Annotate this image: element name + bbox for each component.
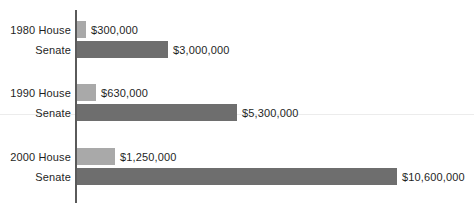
bar-1980-house	[77, 21, 86, 38]
bar-2000-house	[77, 148, 115, 165]
category-label-text: Senate	[35, 171, 71, 183]
category-label-1990-house: 1990 House	[0, 87, 71, 99]
value-label-1980-house: $300,000	[91, 24, 138, 36]
value-label-2000-house: $1,250,000	[120, 151, 177, 163]
category-label-text: 1990 House	[10, 87, 71, 99]
bar-chart: 1980 House $300,000 Senate $3,000,000 19…	[0, 0, 474, 214]
value-label-2000-senate: $10,600,000	[402, 171, 465, 183]
category-label-text: 2000 House	[10, 151, 71, 163]
category-label-2000-house: 2000 House	[0, 151, 71, 163]
value-label-1990-senate: $5,300,000	[242, 107, 299, 119]
bar-1980-senate	[77, 41, 168, 58]
category-label-1980-senate: Senate	[0, 44, 71, 56]
category-label-text: Senate	[35, 107, 71, 119]
value-label-1980-senate: $3,000,000	[173, 44, 230, 56]
bar-1990-senate	[77, 104, 237, 121]
category-label-text: Senate	[35, 44, 71, 56]
ghost-scanline	[0, 114, 474, 115]
value-label-1990-house: $630,000	[101, 87, 148, 99]
bar-1990-house	[77, 84, 96, 101]
category-label-2000-senate: Senate	[0, 171, 71, 183]
bar-2000-senate	[77, 168, 397, 185]
category-label-1990-senate: Senate	[0, 107, 71, 119]
category-label-text: 1980 House	[10, 24, 71, 36]
category-label-1980-house: 1980 House	[0, 24, 71, 36]
